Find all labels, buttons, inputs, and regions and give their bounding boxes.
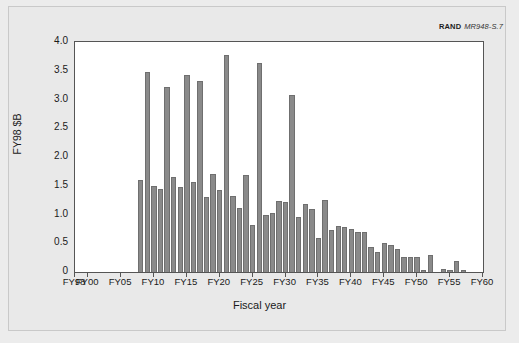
y-tick-label: 1.5 [54,180,68,190]
bar [243,175,248,272]
bar [421,270,426,272]
y-tick-label: 2.5 [54,122,68,132]
bar [217,190,222,272]
y-tick-label: 1.0 [54,209,68,219]
bar [270,213,275,272]
bar [164,87,169,272]
bar [309,209,314,272]
y-tick-label: 2.0 [54,151,68,161]
bar [296,217,301,272]
bar [355,232,360,272]
bar [342,227,347,272]
bar [382,243,387,272]
bar [210,174,215,272]
y-tick-label: 3.0 [54,94,68,104]
bar [395,249,400,272]
bar [336,226,341,272]
bar [184,75,189,272]
y-axis-tick-labels: 00.51.01.52.02.53.03.54.0 [26,34,68,278]
bar [428,255,433,272]
bar [158,189,163,272]
figure-id-label: MR948-S.7 [464,22,503,31]
bar [322,200,327,272]
bar [461,270,466,272]
figure-root: RANDMR948-S.7 FY98 $B 00.51.01.52.02.53.… [0,0,519,343]
bar [145,72,150,272]
bar [257,63,262,272]
bar [171,177,176,272]
bar [230,196,235,272]
bar [303,204,308,272]
bar [151,186,156,272]
y-axis-title: FY98 $B [11,94,23,174]
bar [276,201,281,272]
bar [454,261,459,272]
y-tick-label: 0 [62,266,68,276]
bar [138,180,143,272]
x-tick-label: FY60 [462,276,502,287]
bar [401,257,406,272]
x-axis-title: Fiscal year [0,299,519,311]
bar [408,257,413,272]
bar [204,197,209,272]
bar [283,202,288,272]
rand-logo-text: RAND [439,22,461,31]
bar [388,245,393,272]
y-tick-label: 4.0 [54,36,68,46]
bar [191,182,196,272]
bar [224,55,229,272]
y-tick-label: 0.5 [54,237,68,247]
bar [375,252,380,272]
bar [441,269,446,272]
bar [329,230,334,272]
plot-frame [74,41,484,273]
bar [368,247,373,272]
bar [349,229,354,272]
bar [197,81,202,272]
bar [178,187,183,272]
bar [263,215,268,273]
bar [289,95,294,272]
rand-credit-line: RANDMR948-S.7 [439,22,503,31]
bar [250,225,255,272]
plot-area [75,42,483,272]
bar [414,257,419,272]
y-tick-label: 3.5 [54,65,68,75]
bar [237,208,242,272]
bar [316,238,321,272]
bar [362,232,367,272]
